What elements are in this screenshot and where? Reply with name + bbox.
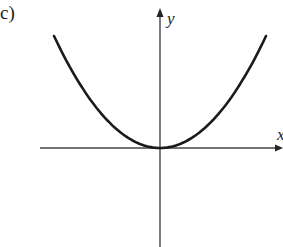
x-axis-label: x xyxy=(276,125,283,144)
x-axis-arrow-icon xyxy=(275,145,283,152)
y-axis-arrow-icon xyxy=(157,8,164,17)
y-axis-label: y xyxy=(165,9,175,28)
parabola-chart: y x xyxy=(0,0,283,247)
